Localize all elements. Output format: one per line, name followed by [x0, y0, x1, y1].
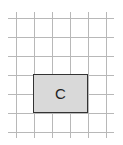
shape-c: C: [33, 74, 88, 113]
grid-line-horizontal: [8, 132, 114, 133]
grid-line-horizontal: [8, 113, 114, 114]
grid-line-horizontal: [8, 56, 114, 57]
grid-line-horizontal: [8, 37, 114, 38]
shape-label: C: [55, 85, 66, 102]
grid-line-horizontal: [8, 18, 114, 19]
